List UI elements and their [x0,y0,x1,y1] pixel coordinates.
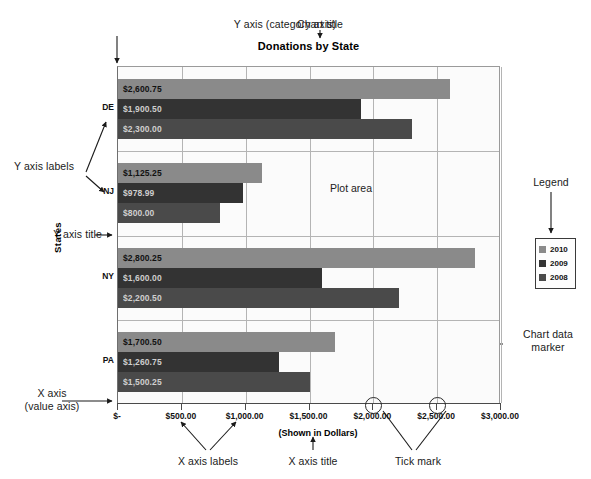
legend-swatch-2009 [539,260,546,267]
y-axis-label-nj: NJ [84,186,114,196]
bar-group-nj: $1,125.25$978.99$800.00 [118,163,499,223]
x-axis-label: $1,500.00 [279,411,339,421]
bar-nj-2009[interactable]: $978.99 [118,183,243,203]
data-label: $1,600.00 [123,273,162,283]
data-label: $2,300.00 [123,124,162,134]
bar-group-ny: $2,800.25$1,600.00$2,200.50 [118,248,499,308]
y-axis-label-pa: PA [84,355,114,365]
data-label: $2,800.25 [123,253,162,263]
y-axis-label-de: DE [84,102,114,112]
bar-pa-2008[interactable]: $1,500.25 [118,372,310,392]
bar-ny-2008[interactable]: $2,200.50 [118,288,399,308]
gridline-horizontal [118,236,499,237]
x-axis-label: $3,000.00 [470,411,530,421]
bar-de-2009[interactable]: $1,900.50 [118,99,361,119]
annotated-chart-figure: Y axis (category axis) Chart title Y axi… [0,0,591,479]
x-axis-label: $- [87,411,147,421]
legend-item-2010[interactable]: 2010 [539,242,572,256]
plot-area-label: Plot area [330,182,372,194]
annotation-chart-title: Chart title [265,18,375,31]
legend-swatch-2010 [539,246,546,253]
annotation-x-axis-title: X axis title [263,455,363,468]
data-label: $1,900.50 [123,104,162,114]
data-label: $2,600.75 [123,84,162,94]
annotation-tick-mark: Tick mark [373,455,463,468]
annotation-legend: Legend [516,176,586,189]
gridline-horizontal [118,151,499,152]
x-axis-tick [117,403,118,410]
chart-title: Donations by State [117,40,500,52]
data-label: $1,125.25 [123,168,162,178]
x-axis-title: (Shown in Dollars) [248,428,388,438]
tick-mark-highlight [429,397,446,414]
bar-ny-2010[interactable]: $2,800.25 [118,248,475,268]
plot-area: $2,600.75$1,900.50$2,300.00$1,125.25$978… [117,66,500,403]
x-axis-label: $500.00 [151,411,211,421]
bar-de-2008[interactable]: $2,300.00 [118,119,412,139]
x-axis-tick [181,403,182,410]
x-axis-tick [309,403,310,410]
legend-swatch-2008 [539,274,546,281]
data-label: $1,260.75 [123,357,162,367]
bar-de-2010[interactable]: $2,600.75 [118,79,450,99]
legend-label-2010: 2010 [550,245,568,254]
y-axis-labels: DENJNYPA [80,66,114,403]
bar-group-de: $2,600.75$1,900.50$2,300.00 [118,79,499,139]
bar-group-pa: $1,700.50$1,260.75$1,500.25 [118,332,499,392]
y-axis-label-ny: NY [84,271,114,281]
annotation-x-axis-labels: X axis labels [148,455,268,468]
gridline-vertical [501,67,502,403]
tick-mark-highlight [365,397,382,414]
y-axis-title: States [52,222,63,253]
bar-nj-2010[interactable]: $1,125.25 [118,163,262,183]
legend-label-2009: 2009 [550,259,568,268]
data-label: $1,700.50 [123,337,162,347]
x-axis-label: $1,000.00 [215,411,275,421]
data-label: $978.99 [123,188,154,198]
x-axis-tick [500,403,501,410]
data-label: $2,200.50 [123,293,162,303]
annotation-chart-data-marker: Chart data marker [505,328,591,353]
bar-pa-2010[interactable]: $1,700.50 [118,332,335,352]
legend-item-2008[interactable]: 2008 [539,270,572,284]
legend-label-2008: 2008 [550,273,568,282]
data-label: $1,500.25 [123,377,162,387]
data-label: $800.00 [123,208,154,218]
bar-pa-2009[interactable]: $1,260.75 [118,352,279,372]
legend: 201020092008 [535,238,576,289]
x-axis-tick [245,403,246,410]
legend-item-2009[interactable]: 2009 [539,256,572,270]
bar-ny-2009[interactable]: $1,600.00 [118,268,322,288]
bar-nj-2008[interactable]: $800.00 [118,203,220,223]
gridline-horizontal [118,320,499,321]
